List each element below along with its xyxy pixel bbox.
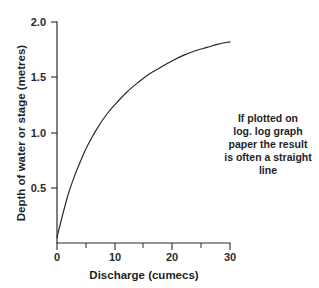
annotation-line-2: log. log graph: [233, 125, 302, 137]
x-tick-label-30: 30: [224, 251, 236, 263]
x-tick-label-0: 0: [54, 251, 60, 263]
y-tick-label-1-0: 1.0: [31, 127, 46, 139]
log-log-annotation: If plotted on log. log graph paper the r…: [224, 112, 312, 176]
x-axis-title: Discharge (cumecs): [89, 269, 198, 281]
rating-curve-chart: 2.0 1.5 1.0 0.5 0 10 20 30 Discharge (cu…: [0, 0, 319, 288]
y-axis-ticks: [51, 22, 57, 188]
annotation-line-5: line: [259, 164, 277, 176]
x-tick-label-10: 10: [109, 251, 121, 263]
chart-canvas: 2.0 1.5 1.0 0.5 0 10 20 30 Discharge (cu…: [0, 0, 319, 288]
x-tick-label-20: 20: [166, 251, 178, 263]
annotation-line-1: If plotted on: [238, 112, 298, 124]
x-axis-minor-ticks: [86, 243, 201, 248]
y-tick-label-1-5: 1.5: [31, 71, 46, 83]
y-axis-title: Depth of water or stage (metres): [15, 45, 27, 222]
y-tick-label-0-5: 0.5: [31, 182, 46, 194]
annotation-line-3: paper the result: [229, 138, 308, 150]
y-tick-label-2-0: 2.0: [31, 16, 46, 28]
rating-curve-line: [57, 42, 230, 238]
annotation-line-4: is often a straight: [224, 151, 312, 163]
